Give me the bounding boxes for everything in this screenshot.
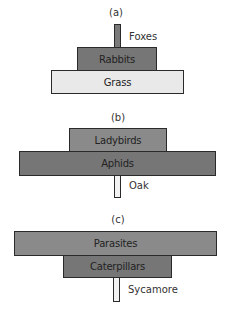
bar-caterpillars: Caterpillars [63, 255, 172, 278]
bar-ladybirds: Ladybirds [69, 128, 167, 152]
label-sycamore: Sycamore [128, 284, 178, 296]
bar-rabbits: Rabbits [77, 47, 157, 71]
bar-foxes [114, 24, 121, 48]
panel-label-c: (c) [103, 214, 133, 226]
bar-aphids: Aphids [19, 151, 216, 176]
bar-oak [114, 175, 121, 198]
label-oak: Oak [129, 180, 149, 192]
label-foxes: Foxes [129, 31, 157, 43]
bar-sycamore [113, 277, 120, 302]
bar-parasites: Parasites [14, 231, 217, 256]
panel-label-a: (a) [101, 7, 131, 19]
bar-grass: Grass [51, 70, 184, 94]
panel-label-b: (b) [103, 112, 133, 124]
